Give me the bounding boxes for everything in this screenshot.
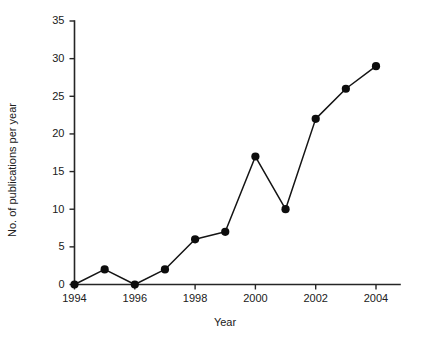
x-tick-label: 2000 <box>243 292 267 304</box>
publications-series-markers <box>70 62 380 289</box>
data-point-marker <box>131 280 139 288</box>
x-axis-title: Year <box>214 316 237 328</box>
y-tick-label: 5 <box>58 240 64 252</box>
data-point-marker <box>161 265 169 273</box>
y-axis-title: No. of publications per year <box>6 103 18 237</box>
x-axis-ticks: 199419961998200020022004 <box>62 285 388 304</box>
publications-per-year-line-chart: 05101520253035 199419961998200020022004 … <box>0 0 421 339</box>
data-point-marker <box>342 85 350 93</box>
y-tick-label: 35 <box>52 14 64 26</box>
publications-series-line <box>75 66 377 284</box>
y-tick-label: 15 <box>52 165 64 177</box>
y-tick-label: 20 <box>52 127 64 139</box>
data-point-marker <box>281 205 289 213</box>
data-point-marker <box>221 228 229 236</box>
x-tick-label: 1998 <box>183 292 207 304</box>
chart-canvas: 05101520253035 199419961998200020022004 … <box>0 0 421 339</box>
data-point-marker <box>70 280 78 288</box>
y-tick-label: 25 <box>52 90 64 102</box>
x-tick-label: 1996 <box>123 292 147 304</box>
data-point-marker <box>372 62 380 70</box>
data-point-marker <box>101 265 109 273</box>
data-point-marker <box>312 115 320 123</box>
data-point-marker <box>191 235 199 243</box>
x-tick-label: 1994 <box>62 292 86 304</box>
y-tick-label: 10 <box>52 203 64 215</box>
y-axis-ticks: 05101520253035 <box>52 14 74 290</box>
data-point-marker <box>251 152 259 160</box>
x-tick-label: 2004 <box>364 292 388 304</box>
y-tick-label: 0 <box>58 278 64 290</box>
y-tick-label: 30 <box>52 52 64 64</box>
x-tick-label: 2002 <box>303 292 327 304</box>
